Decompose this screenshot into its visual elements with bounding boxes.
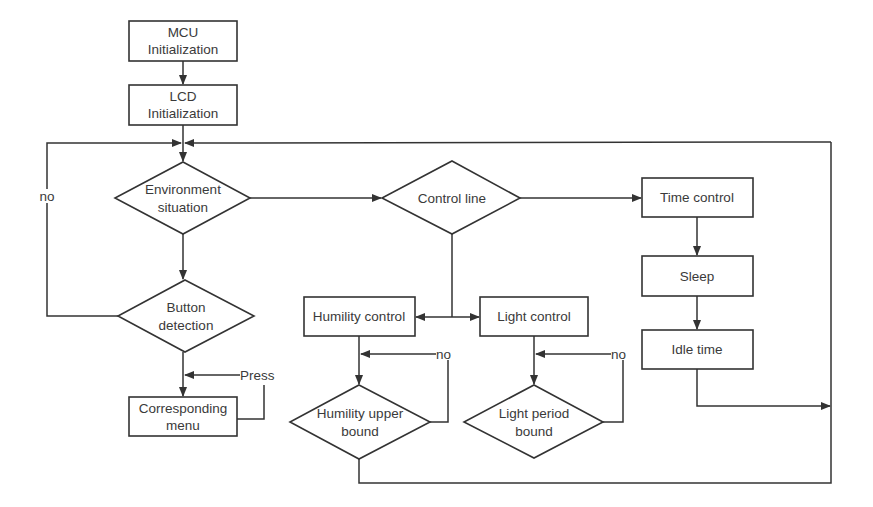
node-control-line: Control line bbox=[382, 161, 520, 234]
node-time-control: Time control bbox=[642, 178, 753, 217]
node-idle-time: Idle time bbox=[642, 330, 753, 369]
node-label: Time control bbox=[660, 190, 734, 205]
node-label: bound bbox=[515, 424, 553, 439]
node-label: Initialization bbox=[148, 42, 219, 57]
edge-label-button-no: no bbox=[39, 189, 54, 204]
node-sleep: Sleep bbox=[642, 256, 753, 296]
node-label: Button bbox=[166, 300, 205, 315]
node-label: bound bbox=[341, 424, 379, 439]
edge-idle-to-return bbox=[697, 369, 830, 406]
edge-light-no-loop bbox=[603, 360, 623, 422]
node-label: Humility upper bbox=[317, 406, 404, 421]
node-label: Humility control bbox=[313, 309, 405, 324]
node-label: Sleep bbox=[680, 269, 715, 284]
edge-label-light-no: no bbox=[611, 347, 626, 362]
node-label: Corresponding bbox=[139, 401, 228, 416]
node-button-detection: Button detection bbox=[118, 280, 254, 352]
node-label: Idle time bbox=[671, 342, 722, 357]
node-label: Initialization bbox=[148, 106, 219, 121]
edge-button-no-loop-lower bbox=[47, 203, 118, 316]
edge-return-to-environment bbox=[185, 142, 831, 143]
edge-humility-no-loop bbox=[430, 360, 448, 422]
edge-label-humility-no: no bbox=[436, 347, 451, 362]
node-label: Control line bbox=[418, 191, 486, 206]
node-label: Light control bbox=[497, 309, 571, 324]
node-label: detection bbox=[159, 318, 214, 333]
node-lcd-initialization: LCD Initialization bbox=[129, 85, 237, 125]
node-mcu-initialization: MCU Initialization bbox=[129, 21, 237, 61]
node-label: situation bbox=[158, 200, 208, 215]
node-light-control: Light control bbox=[480, 297, 588, 336]
node-light-period-bound: Light period bound bbox=[464, 385, 603, 458]
node-label: Light period bbox=[499, 406, 570, 421]
node-label: menu bbox=[166, 418, 200, 433]
node-corresponding-menu: Corresponding menu bbox=[129, 397, 237, 436]
edge-press-loop-lower bbox=[237, 385, 264, 419]
node-label: LCD bbox=[169, 89, 196, 104]
node-label: Environment bbox=[145, 182, 221, 197]
node-humility-upper-bound: Humility upper bound bbox=[290, 385, 430, 459]
node-humility-control: Humility control bbox=[304, 297, 415, 336]
node-label: MCU bbox=[168, 25, 199, 40]
flowchart-canvas: MCU Initialization LCD Initialization En… bbox=[0, 0, 873, 507]
edge-label-press: Press bbox=[240, 368, 275, 383]
node-environment-situation: Environment situation bbox=[115, 162, 250, 234]
